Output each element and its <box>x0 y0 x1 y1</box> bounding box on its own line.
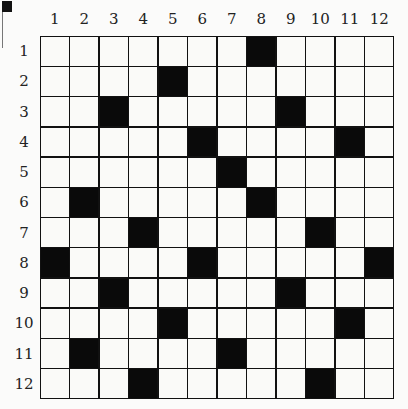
white-cell[interactable] <box>129 339 157 368</box>
white-cell[interactable] <box>41 37 69 66</box>
white-cell[interactable] <box>336 369 364 398</box>
white-cell[interactable] <box>277 309 305 338</box>
black-cell[interactable] <box>129 369 157 398</box>
white-cell[interactable] <box>218 309 246 338</box>
white-cell[interactable] <box>336 248 364 277</box>
white-cell[interactable] <box>336 97 364 126</box>
black-cell[interactable] <box>277 279 305 308</box>
white-cell[interactable] <box>336 188 364 217</box>
white-cell[interactable] <box>70 158 98 187</box>
white-cell[interactable] <box>129 279 157 308</box>
white-cell[interactable] <box>247 369 275 398</box>
white-cell[interactable] <box>218 97 246 126</box>
black-cell[interactable] <box>306 218 334 247</box>
white-cell[interactable] <box>41 369 69 398</box>
white-cell[interactable] <box>365 369 393 398</box>
white-cell[interactable] <box>365 67 393 96</box>
white-cell[interactable] <box>129 67 157 96</box>
white-cell[interactable] <box>365 309 393 338</box>
white-cell[interactable] <box>306 67 334 96</box>
white-cell[interactable] <box>70 248 98 277</box>
white-cell[interactable] <box>277 37 305 66</box>
white-cell[interactable] <box>247 218 275 247</box>
white-cell[interactable] <box>365 37 393 66</box>
white-cell[interactable] <box>306 158 334 187</box>
white-cell[interactable] <box>306 97 334 126</box>
black-cell[interactable] <box>218 339 246 368</box>
white-cell[interactable] <box>100 67 128 96</box>
white-cell[interactable] <box>306 188 334 217</box>
white-cell[interactable] <box>188 37 216 66</box>
white-cell[interactable] <box>159 248 187 277</box>
white-cell[interactable] <box>365 188 393 217</box>
white-cell[interactable] <box>247 309 275 338</box>
white-cell[interactable] <box>218 218 246 247</box>
black-cell[interactable] <box>129 218 157 247</box>
white-cell[interactable] <box>306 248 334 277</box>
white-cell[interactable] <box>365 97 393 126</box>
white-cell[interactable] <box>100 188 128 217</box>
white-cell[interactable] <box>277 248 305 277</box>
white-cell[interactable] <box>365 128 393 157</box>
white-cell[interactable] <box>247 248 275 277</box>
black-cell[interactable] <box>70 339 98 368</box>
black-cell[interactable] <box>247 188 275 217</box>
black-cell[interactable] <box>336 128 364 157</box>
black-cell[interactable] <box>100 97 128 126</box>
white-cell[interactable] <box>218 128 246 157</box>
white-cell[interactable] <box>277 188 305 217</box>
white-cell[interactable] <box>70 97 98 126</box>
white-cell[interactable] <box>159 339 187 368</box>
white-cell[interactable] <box>129 248 157 277</box>
white-cell[interactable] <box>70 309 98 338</box>
white-cell[interactable] <box>159 97 187 126</box>
white-cell[interactable] <box>100 158 128 187</box>
white-cell[interactable] <box>306 339 334 368</box>
white-cell[interactable] <box>306 309 334 338</box>
white-cell[interactable] <box>41 279 69 308</box>
white-cell[interactable] <box>70 37 98 66</box>
white-cell[interactable] <box>188 67 216 96</box>
black-cell[interactable] <box>159 309 187 338</box>
white-cell[interactable] <box>247 158 275 187</box>
white-cell[interactable] <box>218 248 246 277</box>
white-cell[interactable] <box>159 188 187 217</box>
black-cell[interactable] <box>188 248 216 277</box>
white-cell[interactable] <box>188 339 216 368</box>
black-cell[interactable] <box>159 67 187 96</box>
white-cell[interactable] <box>277 128 305 157</box>
white-cell[interactable] <box>100 248 128 277</box>
white-cell[interactable] <box>218 279 246 308</box>
black-cell[interactable] <box>188 128 216 157</box>
white-cell[interactable] <box>188 97 216 126</box>
white-cell[interactable] <box>277 339 305 368</box>
white-cell[interactable] <box>159 158 187 187</box>
black-cell[interactable] <box>247 37 275 66</box>
white-cell[interactable] <box>247 279 275 308</box>
white-cell[interactable] <box>129 97 157 126</box>
black-cell[interactable] <box>70 188 98 217</box>
white-cell[interactable] <box>70 128 98 157</box>
white-cell[interactable] <box>100 339 128 368</box>
white-cell[interactable] <box>218 188 246 217</box>
white-cell[interactable] <box>41 67 69 96</box>
white-cell[interactable] <box>277 218 305 247</box>
white-cell[interactable] <box>247 67 275 96</box>
white-cell[interactable] <box>41 158 69 187</box>
white-cell[interactable] <box>188 279 216 308</box>
black-cell[interactable] <box>277 97 305 126</box>
white-cell[interactable] <box>100 369 128 398</box>
white-cell[interactable] <box>100 37 128 66</box>
white-cell[interactable] <box>365 158 393 187</box>
white-cell[interactable] <box>336 158 364 187</box>
white-cell[interactable] <box>365 339 393 368</box>
white-cell[interactable] <box>188 158 216 187</box>
white-cell[interactable] <box>336 218 364 247</box>
white-cell[interactable] <box>188 188 216 217</box>
white-cell[interactable] <box>129 37 157 66</box>
white-cell[interactable] <box>41 188 69 217</box>
black-cell[interactable] <box>41 248 69 277</box>
white-cell[interactable] <box>41 309 69 338</box>
white-cell[interactable] <box>306 128 334 157</box>
white-cell[interactable] <box>306 279 334 308</box>
